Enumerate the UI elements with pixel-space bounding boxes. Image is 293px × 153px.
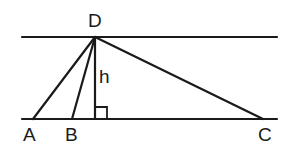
segment-DA bbox=[33, 37, 95, 119]
segment-DB bbox=[72, 37, 95, 119]
label-A: A bbox=[23, 124, 36, 145]
segment-DC bbox=[95, 37, 263, 119]
label-h: h bbox=[99, 66, 110, 87]
label-B: B bbox=[65, 124, 78, 145]
label-C: C bbox=[258, 124, 272, 145]
geometry-diagram: D h A B C bbox=[0, 0, 293, 153]
label-D: D bbox=[88, 10, 102, 31]
right-angle-marker bbox=[95, 107, 107, 119]
